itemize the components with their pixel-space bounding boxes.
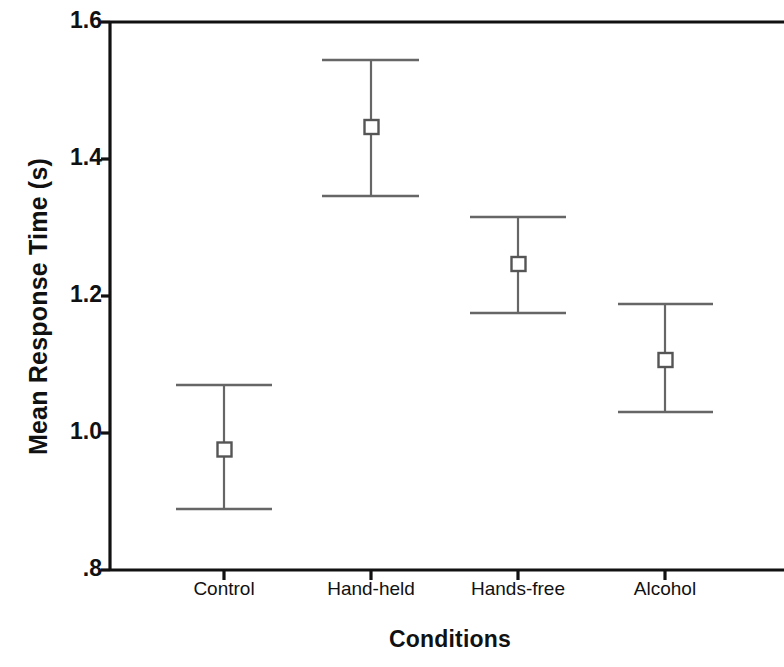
x-tick-label-hands-free: Hands-free — [471, 578, 565, 600]
data-point-marker-control — [218, 443, 232, 457]
data-point-marker-hand-held — [365, 120, 379, 134]
x-tick-label-hand-held: Hand-held — [327, 578, 415, 600]
error-bar-alcohol — [618, 304, 713, 412]
x-axis-title: Conditions — [0, 626, 784, 653]
x-tick-label-control: Control — [193, 578, 254, 600]
data-point-marker-alcohol — [659, 353, 673, 367]
error-bar-hand-held — [322, 60, 419, 196]
error-bar-hands-free — [470, 217, 566, 313]
x-tick-label-alcohol: Alcohol — [634, 578, 696, 600]
error-bar-chart-figure: Mean Response Time (s) 1.6 1.4 1.2 1.0 .… — [0, 0, 784, 667]
plot-area — [0, 0, 784, 667]
x-axis-tick-labels: Control Hand-held Hands-free Alcohol — [0, 578, 784, 612]
data-point-marker-hands-free — [512, 257, 526, 271]
error-bar-control — [176, 385, 272, 509]
